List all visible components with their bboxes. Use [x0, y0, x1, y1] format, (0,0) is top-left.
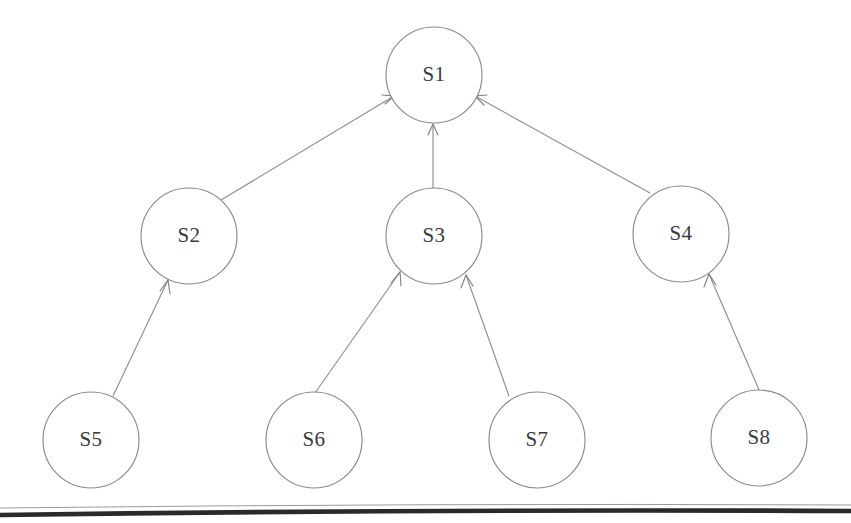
- node-s6[interactable]: S6: [266, 392, 362, 488]
- node-layer: S1 S2 S3 S4 S5 S6: [43, 27, 807, 488]
- edge-s8-to-s4: [704, 274, 760, 392]
- edge-s2-to-s1: [221, 95, 394, 200]
- node-s5-label: S5: [80, 427, 103, 451]
- edge-s3-to-s1: [428, 124, 438, 189]
- node-s4-label: S4: [670, 221, 693, 245]
- edge-s6-to-s3: [315, 272, 401, 393]
- node-s8[interactable]: S8: [711, 390, 807, 486]
- node-s4[interactable]: S4: [633, 186, 729, 282]
- node-s1[interactable]: S1: [386, 27, 482, 123]
- node-s1-label: S1: [423, 62, 446, 86]
- node-s3[interactable]: S3: [386, 188, 482, 284]
- node-s2-label: S2: [178, 223, 201, 247]
- node-s7-label: S7: [526, 427, 549, 451]
- node-s6-label: S6: [303, 427, 326, 451]
- footer-rule: [0, 504, 851, 515]
- edge-s7-to-s3: [461, 275, 509, 396]
- node-s7[interactable]: S7: [489, 392, 585, 488]
- node-s8-label: S8: [748, 425, 771, 449]
- diagram-canvas: S1 S2 S3 S4 S5 S6: [0, 0, 851, 523]
- edge-s5-to-s2: [113, 280, 170, 396]
- state-hierarchy-graph: S1 S2 S3 S4 S5 S6: [0, 0, 851, 523]
- node-s3-label: S3: [423, 223, 446, 247]
- node-s2[interactable]: S2: [141, 188, 237, 284]
- node-s5[interactable]: S5: [43, 392, 139, 488]
- edge-s4-to-s1: [475, 95, 650, 193]
